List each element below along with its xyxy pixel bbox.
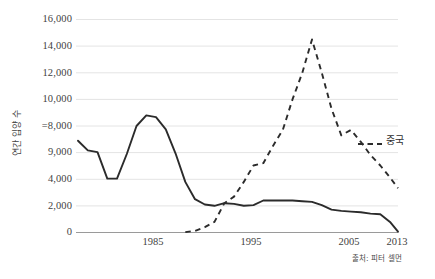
legend-dashed-line-icon [358,135,382,145]
legend-item-label: 중국 [386,135,404,146]
y-tick-label: =8,000 [24,121,72,132]
y-axis-title: 연간 입양 수 [10,90,24,176]
chart-legend: 중국 [358,133,404,147]
y-tick-label: 12,000 [24,68,72,79]
x-tick-label: 2013 [387,236,408,248]
series-line-solid [78,115,398,231]
y-tick-label: 9,000 [24,147,72,158]
y-tick-label: 2,000 [24,201,72,212]
y-tick-label: 16,000 [24,14,72,25]
y-tick-label: 4,000 [24,174,72,185]
chart-figure: 연간 입양 수 16,000 14,000 12,000 10,000 =8,0… [0,0,435,279]
y-tick-label: 14,000 [24,41,72,52]
y-tick-label: 10,000 [24,94,72,105]
y-axis-title-text: 연간 입양 수 [12,110,22,156]
x-axis-tick-labels: 1985 1995 2005 2013 [0,236,435,252]
x-tick-label: 1995 [241,236,262,248]
gridlines [76,20,398,206]
x-tick-label: 2005 [339,236,360,248]
x-tick-label: 1985 [143,236,164,248]
source-note: 출처: 피터 셀먼 [352,254,402,263]
